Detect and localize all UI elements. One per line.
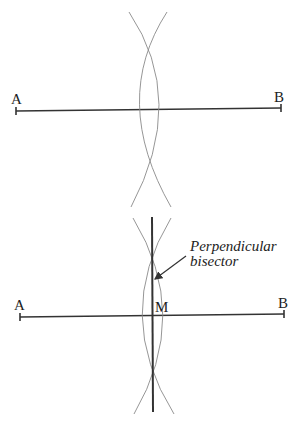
callout-text-line1: Perpendicular bbox=[189, 238, 277, 254]
label-b: B bbox=[274, 89, 284, 105]
segment-ab bbox=[16, 108, 281, 111]
label-a: A bbox=[11, 91, 22, 107]
callout-text-line2: bisector bbox=[190, 253, 238, 269]
figure-arcs: A B bbox=[11, 12, 284, 207]
figure-bisector: A B M Perpendicular bisector bbox=[14, 217, 288, 414]
callout-arrow-icon bbox=[155, 256, 186, 279]
perpendicular-bisector-diagram: A B A B M Perpendicular bisector bbox=[0, 0, 298, 436]
label-a: A bbox=[14, 297, 25, 313]
label-midpoint: M bbox=[155, 299, 168, 315]
perpendicular-bisector-line bbox=[152, 217, 153, 412]
label-b: B bbox=[278, 295, 288, 311]
